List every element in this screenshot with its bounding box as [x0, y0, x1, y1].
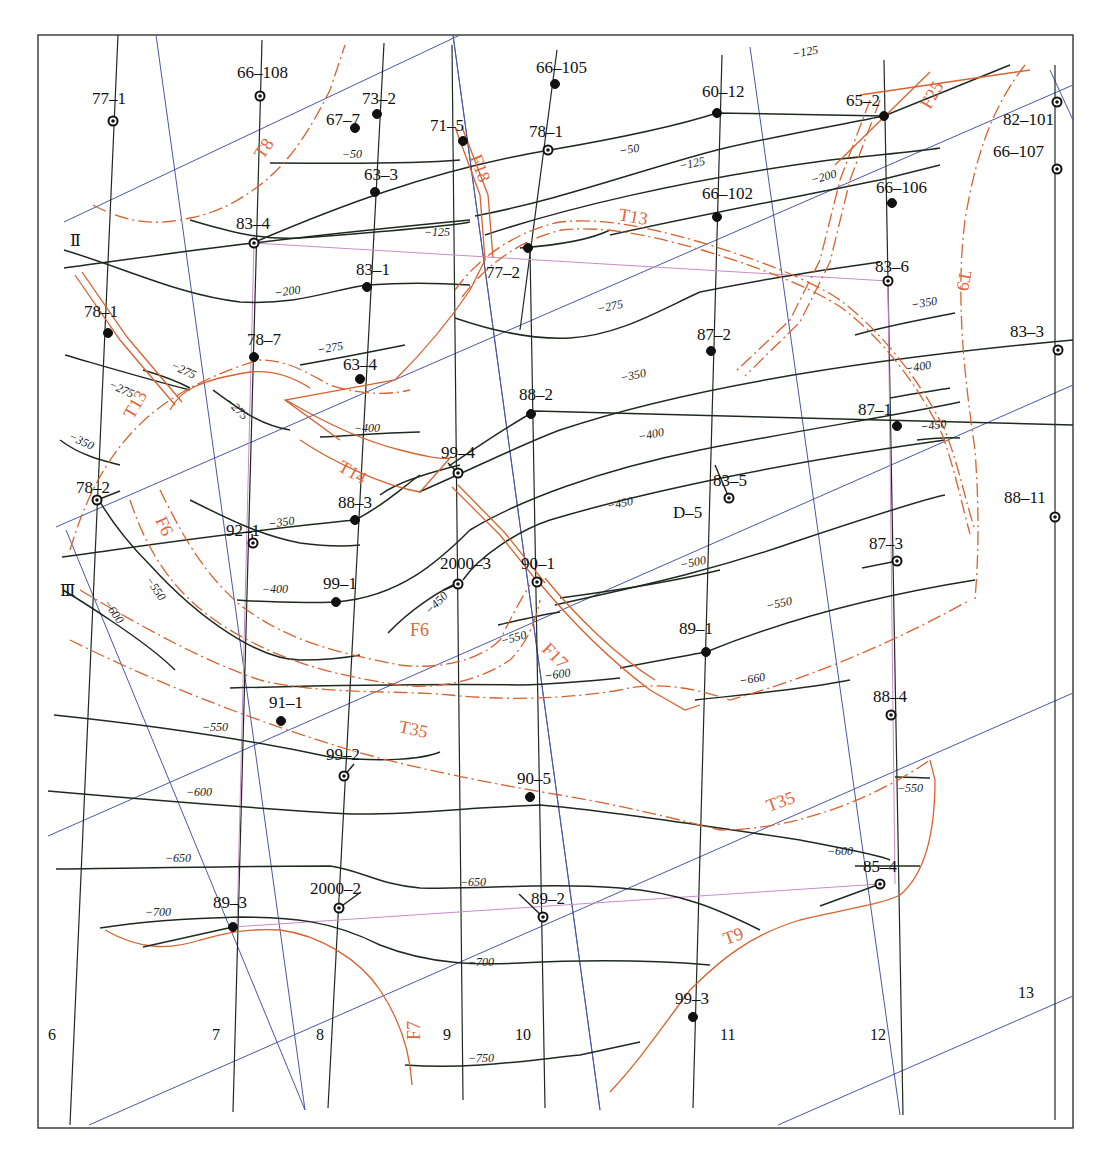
well-solid-icon — [229, 923, 238, 932]
contour-label: −550 — [202, 720, 228, 734]
well-label: 99–3 — [675, 989, 709, 1008]
well-solid-icon — [527, 410, 536, 419]
well-2000-2[interactable]: 2000–2 — [310, 879, 361, 913]
well-label: 83–4 — [236, 214, 271, 233]
well-66-105[interactable]: 66–105 — [536, 58, 587, 89]
section-label-III: Ⅲ — [60, 582, 75, 599]
well-83-1[interactable]: 83–1 — [356, 260, 390, 292]
well-88-11[interactable]: 88–11 — [1004, 488, 1060, 522]
well-solid-icon — [893, 422, 902, 431]
well-solid-icon — [351, 516, 360, 525]
contour-label: −550 — [897, 781, 923, 795]
well-83-6[interactable]: 83–6 — [875, 257, 909, 286]
well-91-1[interactable]: 91–1 — [269, 693, 303, 726]
well-89-1[interactable]: 89–1 — [679, 619, 713, 657]
well-label: 66–105 — [536, 58, 587, 77]
well-solid-icon — [713, 213, 722, 222]
well-89-3[interactable]: 89–3 — [213, 893, 247, 932]
well-ring-center-icon — [456, 582, 460, 586]
well-77-1[interactable]: 77–1 — [92, 89, 126, 126]
fault-label: T9 — [721, 923, 747, 949]
well-88-3[interactable]: 88–3 — [338, 493, 372, 525]
well-88-4[interactable]: 88–4 — [873, 687, 908, 720]
well-label: 63–4 — [343, 355, 378, 374]
contour-label: −350 — [619, 366, 647, 385]
contour-label: −200 — [273, 282, 301, 299]
contour-label: −650 — [460, 875, 486, 889]
well-63-3[interactable]: 63–3 — [364, 165, 398, 197]
contour-label: −350 — [910, 294, 938, 312]
well-label: 77–2 — [486, 263, 520, 282]
well-label: 89–3 — [213, 893, 247, 912]
well-66-102[interactable]: 66–102 — [702, 184, 753, 222]
well-label: 65–2 — [846, 91, 880, 110]
fault-label: F18 — [466, 152, 494, 185]
well-87-3[interactable]: 87–3 — [869, 534, 903, 566]
well-label: 87–3 — [869, 534, 903, 553]
well-label: 83–3 — [1010, 322, 1044, 341]
well-77-2[interactable]: 77–2 — [486, 244, 533, 283]
well-83-5[interactable]: 83–5 — [713, 471, 747, 503]
well-solid-icon — [373, 110, 382, 119]
well-label: 66–106 — [876, 178, 927, 197]
grid-line-label: 12 — [870, 1026, 886, 1043]
well-ring-center-icon — [535, 580, 539, 584]
well-78-1[interactable]: 78–1 — [529, 122, 563, 155]
well-label: 89–2 — [531, 889, 565, 908]
well-2000-3[interactable]: 2000–3 — [440, 554, 491, 589]
well-D-5[interactable]: D–5 — [673, 503, 702, 522]
contour-label: −125 — [791, 43, 819, 61]
well-solid-icon — [356, 375, 365, 384]
contour-label: −350 — [267, 513, 295, 530]
well-63-4[interactable]: 63–4 — [343, 355, 378, 384]
well-66-108[interactable]: 66–108 — [237, 63, 288, 101]
well-99-4[interactable]: 99–4 — [441, 443, 476, 478]
well-ring-center-icon — [1056, 348, 1060, 352]
well-78-1[interactable]: 78–1 — [84, 302, 118, 338]
well-label: 90–1 — [521, 554, 555, 573]
contour-label: −660 — [738, 670, 766, 688]
well-85-4[interactable]: 85–4 — [863, 857, 898, 889]
well-92-1[interactable]: 92–1 — [226, 521, 260, 548]
fault-label: T14 — [335, 456, 370, 488]
well-87-2[interactable]: 87–2 — [697, 325, 731, 356]
well-solid-icon — [524, 244, 533, 253]
well-90-5[interactable]: 90–5 — [517, 769, 551, 802]
contour-label: −550 — [765, 594, 793, 613]
fault-label: T13 — [617, 204, 649, 229]
well-ring-center-icon — [878, 882, 882, 886]
well-label: 83–6 — [875, 257, 909, 276]
well-66-107[interactable]: 66–107 — [993, 142, 1062, 174]
well-78-2[interactable]: 78–2 — [76, 478, 110, 505]
well-67-7[interactable]: 67–7 — [326, 110, 361, 133]
structure-contour-map: 77–166–10867–773–271–566–10578–160–1265–… — [0, 0, 1103, 1160]
well-label: 78–7 — [247, 330, 282, 349]
well-ring-center-icon — [1055, 100, 1059, 104]
well-89-2[interactable]: 89–2 — [531, 889, 565, 922]
well-88-2[interactable]: 88–2 — [519, 385, 553, 419]
well-solid-icon — [459, 137, 468, 146]
well-99-2[interactable]: 99–2 — [326, 745, 360, 781]
well-83-4[interactable]: 83–4 — [236, 214, 271, 248]
well-label: 92–1 — [226, 521, 260, 540]
well-90-1[interactable]: 90–1 — [521, 554, 555, 587]
section-label-II: Ⅱ — [70, 232, 81, 249]
well-ring-center-icon — [251, 541, 255, 545]
fault-label: F7 — [404, 1021, 424, 1040]
well-66-106[interactable]: 66–106 — [876, 178, 927, 208]
well-solid-icon — [104, 329, 113, 338]
well-60-12[interactable]: 60–12 — [702, 82, 745, 118]
contour-label: −600 — [186, 785, 212, 799]
well-99-3[interactable]: 99–3 — [675, 989, 709, 1022]
well-73-2[interactable]: 73–2 — [362, 89, 396, 119]
contour-labels-layer: −50−50−125−125−200−125−200−275−350−275−2… — [67, 43, 948, 1065]
contour-label: −125 — [678, 154, 706, 173]
well-71-5[interactable]: 71–5 — [430, 116, 468, 146]
well-label: 78–2 — [76, 478, 110, 497]
grid-line-label: 10 — [515, 1026, 531, 1043]
well-ring-center-icon — [95, 498, 99, 502]
well-ring-center-icon — [456, 471, 460, 475]
well-ring-center-icon — [546, 148, 550, 152]
well-78-7[interactable]: 78–7 — [247, 330, 282, 362]
contour-label: −400 — [354, 421, 380, 435]
